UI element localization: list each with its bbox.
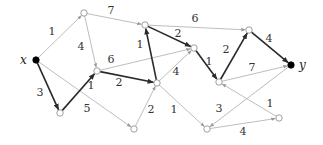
terminal-label-x: x <box>20 53 27 67</box>
node-h <box>204 126 210 132</box>
edge-weight-label: 4 <box>173 65 180 78</box>
edge-weight-label: 1 <box>267 97 274 110</box>
edge-weight-label: 6 <box>192 12 199 25</box>
node-i <box>246 27 252 33</box>
edge-weight-label: 1 <box>137 38 144 51</box>
graph-diagram: 135741261224161247134 xy <box>0 0 323 145</box>
edge-b-i <box>148 25 245 30</box>
terminal-node-x <box>33 57 39 63</box>
node-j <box>216 79 222 85</box>
edge-weight-label: 2 <box>175 27 182 40</box>
edge-c-e <box>100 72 153 83</box>
edge-weight-label: 7 <box>108 4 115 17</box>
edge-a-c <box>85 16 96 67</box>
edge-weight-label: 1 <box>171 103 178 116</box>
edge-weight-label: 7 <box>249 61 256 74</box>
edge-weight-label: 2 <box>116 76 123 89</box>
node-layer: xy <box>20 10 306 132</box>
edge-j-i <box>221 33 248 79</box>
terminal-node-y <box>288 62 294 68</box>
edge-weight-label: 4 <box>78 40 85 53</box>
node-k <box>276 115 282 121</box>
edge-b-f <box>148 26 191 46</box>
node-c <box>94 68 100 74</box>
node-f <box>191 45 197 51</box>
node-a <box>81 10 87 16</box>
terminal-label-y: y <box>298 58 306 72</box>
node-d <box>57 110 63 116</box>
edge-e-b <box>146 29 157 80</box>
edge-weight-label: 5 <box>84 102 91 115</box>
edge-weight-label: 4 <box>240 125 247 138</box>
edge-weight-label: 3 <box>216 102 223 115</box>
edge-e-h <box>159 85 204 126</box>
edge-weight-label: 4 <box>266 32 273 45</box>
edge-weight-label: 1 <box>206 55 213 68</box>
node-b <box>142 22 148 28</box>
edge-weight-label: 1 <box>88 79 95 92</box>
node-g <box>131 126 137 132</box>
edge-x-g <box>39 62 131 127</box>
edge-x-a <box>38 16 81 58</box>
edge-weight-label: 2 <box>223 43 230 56</box>
node-e <box>154 80 160 86</box>
edge-weight-label: 2 <box>148 103 155 116</box>
edge-weight-label: 3 <box>37 86 44 99</box>
edge-weight-label: 1 <box>49 25 56 38</box>
edge-weight-label: 6 <box>108 53 115 66</box>
